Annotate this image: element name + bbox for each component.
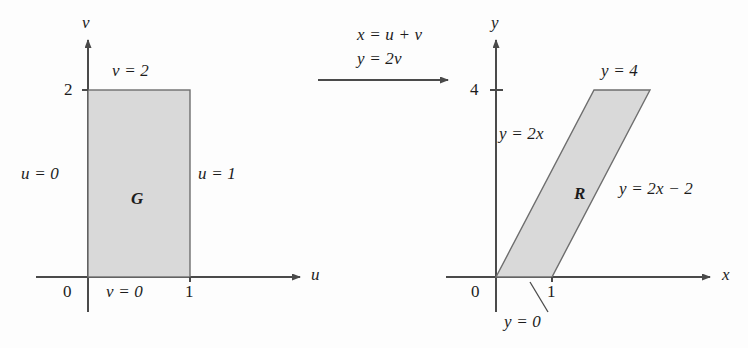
left-plot-u-axis-label: u xyxy=(311,266,320,283)
right-plot-bottom-boundary-label: y = 0 xyxy=(504,313,541,330)
y-equals-zero-leader-line xyxy=(530,282,548,312)
left-plot-y-tick-label-2: 2 xyxy=(64,81,73,98)
right-plot-y-tick-label-4: 4 xyxy=(470,81,479,98)
right-plot-origin-label: 0 xyxy=(471,283,480,300)
transformation-equation-x: x = u + v xyxy=(357,26,422,43)
left-plot-right-boundary-label: u = 1 xyxy=(198,165,236,182)
left-plot-x-tick-label-1: 1 xyxy=(185,283,194,300)
right-plot-top-boundary-label: y = 4 xyxy=(601,62,638,79)
left-plot-origin-label: 0 xyxy=(63,283,72,300)
transformation-figure: v u 2 1 0 v = 2 v = 0 u = 0 u = 1 G x = … xyxy=(0,0,748,348)
region-r-label: R xyxy=(574,185,585,202)
left-plot-v-axis-label: v xyxy=(82,14,90,31)
left-plot-top-boundary-label: v = 2 xyxy=(112,62,149,79)
right-plot-x-axis-label: x xyxy=(722,266,730,283)
transformation-equation-y: y = 2v xyxy=(357,50,402,67)
right-plot-y-axis-label: y xyxy=(491,14,499,31)
left-plot-left-boundary-label: u = 0 xyxy=(21,165,59,182)
region-g-rectangle xyxy=(88,90,190,277)
right-plot-left-boundary-label: y = 2x xyxy=(499,125,544,142)
right-plot-x-tick-label-1: 1 xyxy=(547,283,556,300)
region-g-label: G xyxy=(131,190,143,207)
left-plot-bottom-boundary-label: v = 0 xyxy=(106,283,143,300)
right-plot-right-boundary-label: y = 2x − 2 xyxy=(619,180,693,197)
